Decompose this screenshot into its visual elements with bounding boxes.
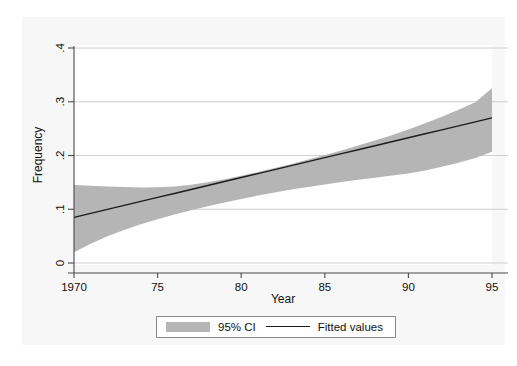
y-tick-label-4: .4 bbox=[54, 43, 66, 53]
x-axis-title: Year bbox=[271, 292, 295, 306]
figure-container: 19707580859095 0.1.2.3.4 Year Frequency … bbox=[0, 0, 517, 366]
legend-label-fitted: Fitted values bbox=[318, 321, 383, 333]
x-tick-label-5: 95 bbox=[486, 281, 499, 293]
legend: 95% CI Fitted values bbox=[156, 316, 396, 338]
legend-entry-fitted: Fitted values bbox=[256, 321, 383, 333]
x-tick-label-4: 90 bbox=[402, 281, 415, 293]
y-tick-label-0: 0 bbox=[54, 260, 66, 266]
chart-svg: 19707580859095 0.1.2.3.4 Year Frequency bbox=[0, 0, 517, 366]
ci-band-swatch-icon bbox=[166, 322, 210, 332]
legend-label-ci: 95% CI bbox=[218, 321, 256, 333]
ci-band-area bbox=[74, 88, 492, 252]
x-tick-label-2: 80 bbox=[235, 281, 248, 293]
y-tick-label-3: .3 bbox=[54, 97, 66, 107]
ci-band-group bbox=[74, 88, 492, 252]
x-tick-label-1: 75 bbox=[151, 281, 164, 293]
y-tick-label-2: .2 bbox=[54, 151, 66, 161]
legend-entry-ci: 95% CI bbox=[157, 321, 256, 333]
y-tick-label-1: .1 bbox=[54, 204, 66, 214]
fitted-line-glyph bbox=[266, 326, 310, 327]
y-axis-title: Frequency bbox=[31, 127, 45, 184]
x-tick-label-3: 85 bbox=[318, 281, 331, 293]
fitted-line-swatch-icon bbox=[266, 322, 310, 332]
y-tick-labels-group: 0.1.2.3.4 bbox=[54, 43, 66, 267]
x-tick-label-0: 1970 bbox=[61, 281, 87, 293]
